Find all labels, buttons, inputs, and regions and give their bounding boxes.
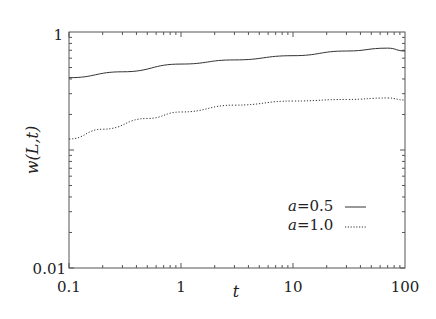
legend-label-a10: a=1.0 [288,216,333,234]
legend: a=0.5 a=1.0 [288,197,366,234]
plot-frame [69,32,405,268]
x-axis-label: t [233,282,240,301]
series-line-a05 [69,48,405,78]
series-line-a10 [69,98,405,139]
series-lines [69,48,405,139]
x-tick-label-0.1: 0.1 [57,278,81,296]
x-tick-label-10: 10 [283,278,302,296]
axis-ticks [69,32,405,268]
x-tick-label-1: 1 [176,278,186,296]
y-axis-label: w(L,t) [23,126,42,174]
chart-canvas: 1 0.01 0.1 1 10 100 t w(L,t) a=0.5 a=1.0 [0,0,436,319]
legend-label-a05: a=0.5 [288,197,333,215]
y-tick-label-1: 1 [53,26,63,44]
y-tick-label-0.01: 0.01 [33,260,66,278]
x-tick-label-100: 100 [391,278,420,296]
